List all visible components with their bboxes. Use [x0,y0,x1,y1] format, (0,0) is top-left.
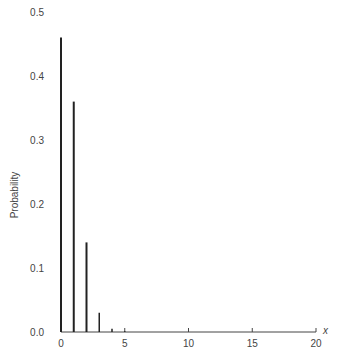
y-axis-tick-labels: 0.00.10.20.30.40.5 [30,7,44,338]
y-tick-label: 0.1 [30,263,44,274]
probability-stem-chart: 0.00.10.20.30.40.5 Probability 05101520 … [0,0,339,359]
y-tick-label: 0.0 [30,327,44,338]
x-tick-label: 10 [183,338,195,349]
y-tick-label: 0.3 [30,135,44,146]
y-tick-label: 0.2 [30,199,44,210]
x-tick-label: 0 [58,338,64,349]
y-tick-label: 0.4 [30,71,44,82]
x-axis-title: x [322,325,329,336]
y-tick-label: 0.5 [30,7,44,18]
x-axis-tick-labels: 05101520 [58,338,322,349]
x-tick-label: 5 [122,338,128,349]
probability-stems [61,38,125,332]
y-axis-title: Probability [9,172,20,219]
x-tick-label: 15 [247,338,259,349]
x-tick-label: 20 [310,338,322,349]
